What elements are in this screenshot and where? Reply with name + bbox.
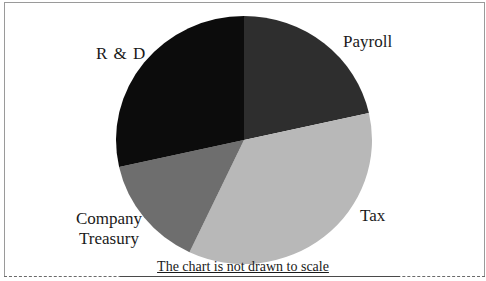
label-payroll: Payroll	[343, 32, 392, 52]
label-rd: R & D	[96, 44, 146, 64]
label-company-treasury: Company Treasury	[72, 209, 146, 249]
label-treasury-line2: Treasury	[72, 229, 146, 249]
label-tax: Tax	[360, 206, 385, 226]
label-treasury-line1: Company	[72, 209, 146, 229]
chart-caption: The chart is not drawn to scale	[0, 259, 486, 275]
